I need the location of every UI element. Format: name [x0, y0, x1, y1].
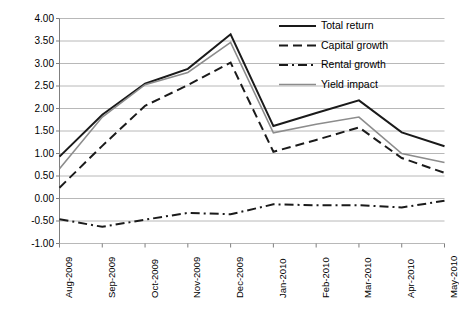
legend-label-yield-impact: Yield impact [321, 79, 378, 90]
y-tick-label: 4.00 [8, 14, 54, 24]
x-tick-label: May-2010 [449, 255, 459, 297]
x-tick-marks [60, 244, 445, 248]
x-tick-label: Oct-2009 [150, 258, 160, 297]
legend-label-capital-growth: Capital growth [321, 40, 388, 51]
y-tick-label: 0.00 [8, 194, 54, 204]
legend-line-samples [279, 26, 316, 85]
x-tick-label: Nov-2009 [192, 256, 202, 297]
y-tick-label: 2.50 [8, 81, 54, 91]
y-tick-label: 2.00 [8, 104, 54, 114]
x-tick-label: Sep-2009 [107, 256, 117, 297]
axis-lines [56, 19, 60, 244]
series-line-total-return [60, 34, 445, 156]
x-tick-label: Feb-2010 [321, 257, 331, 298]
series-line-rental-growth [60, 201, 445, 227]
x-tick-label: Aug-2009 [64, 256, 74, 297]
x-tick-label: Mar-2010 [363, 257, 373, 298]
x-tick-label: Jan-2010 [278, 258, 288, 298]
legend-label-rental-growth: Rental growth [321, 59, 386, 70]
x-tick-label: Apr-2010 [406, 258, 416, 297]
y-tick-label: 3.00 [8, 59, 54, 69]
y-tick-label: 0.50 [8, 171, 54, 181]
y-tick-label: 1.50 [8, 126, 54, 136]
y-tick-label: 3.50 [8, 36, 54, 46]
y-tick-label: -1.00 [8, 239, 54, 249]
y-tick-label: -0.50 [8, 216, 54, 226]
legend-label-total-return: Total return [321, 20, 374, 31]
y-tick-label: 1.00 [8, 149, 54, 159]
x-tick-label: Dec-2009 [235, 256, 245, 297]
series-line-yield-impact [60, 42, 445, 168]
